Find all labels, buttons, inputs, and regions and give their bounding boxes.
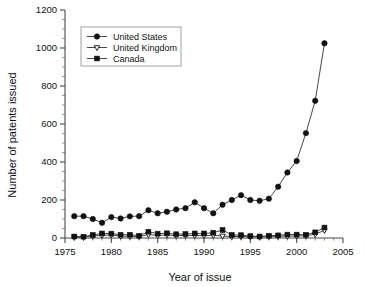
data-point-2-0 <box>72 234 77 239</box>
data-point-2-21 <box>266 233 271 238</box>
x-tick-label: 1985 <box>147 246 168 257</box>
data-point-2-3 <box>100 231 105 236</box>
data-point-0-22 <box>275 184 280 189</box>
data-point-0-15 <box>211 211 216 216</box>
data-point-0-19 <box>248 197 253 202</box>
x-tick-label: 2000 <box>286 246 307 257</box>
data-point-0-21 <box>266 196 271 201</box>
data-point-0-26 <box>313 98 318 103</box>
data-point-0-16 <box>220 202 225 207</box>
y-tick-label: 1000 <box>36 42 57 53</box>
data-point-0-6 <box>127 214 132 219</box>
data-point-0-0 <box>72 213 77 218</box>
x-tick-label: 2005 <box>332 246 353 257</box>
data-point-0-3 <box>99 220 104 225</box>
data-point-2-13 <box>192 231 197 236</box>
data-point-2-4 <box>109 231 114 236</box>
x-axis-label: Year of issue <box>168 271 231 283</box>
data-point-2-6 <box>127 232 132 237</box>
data-point-2-16 <box>220 228 225 233</box>
x-tick-label: 1975 <box>54 246 75 257</box>
data-point-0-11 <box>174 207 179 212</box>
data-point-0-18 <box>238 193 243 198</box>
data-point-2-19 <box>248 234 253 239</box>
data-point-0-1 <box>81 213 86 218</box>
data-point-0-7 <box>136 213 141 218</box>
data-point-2-7 <box>137 233 142 238</box>
data-point-2-5 <box>118 232 123 237</box>
data-point-2-25 <box>304 232 309 237</box>
data-point-0-8 <box>146 208 151 213</box>
legend-label-2: Canada <box>113 54 145 64</box>
data-point-0-17 <box>229 197 234 202</box>
data-point-0-27 <box>322 41 327 46</box>
data-point-2-20 <box>257 234 262 239</box>
patents-line-chart: 1975198019851990199520002005 02004006008… <box>0 0 365 287</box>
data-point-0-5 <box>118 216 123 221</box>
data-point-2-17 <box>229 233 234 238</box>
data-point-0-4 <box>109 214 114 219</box>
data-point-0-24 <box>294 158 299 163</box>
y-tick-label: 800 <box>41 80 57 91</box>
data-point-2-2 <box>90 233 95 238</box>
data-point-0-25 <box>303 130 308 135</box>
data-point-0-13 <box>192 200 197 205</box>
legend-marker-2 <box>95 56 100 61</box>
legend-label-1: United Kingdom <box>113 43 177 53</box>
data-point-2-26 <box>313 230 318 235</box>
y-tick-label: 1200 <box>36 4 57 15</box>
data-point-2-18 <box>239 233 244 238</box>
data-point-2-23 <box>285 232 290 237</box>
x-tick-label: 1980 <box>101 246 122 257</box>
x-tick-label: 1990 <box>193 246 214 257</box>
data-point-0-10 <box>164 209 169 214</box>
data-point-2-8 <box>146 229 151 234</box>
data-point-0-20 <box>257 198 262 203</box>
y-axis-label: Number of patents issued <box>6 72 18 197</box>
data-point-2-12 <box>183 232 188 237</box>
data-point-0-2 <box>90 216 95 221</box>
data-point-0-9 <box>155 211 160 216</box>
data-point-2-11 <box>174 232 179 237</box>
data-point-2-24 <box>294 232 299 237</box>
y-tick-label: 0 <box>52 232 57 243</box>
data-point-2-9 <box>155 231 160 236</box>
data-point-2-1 <box>81 234 86 239</box>
data-point-0-12 <box>183 205 188 210</box>
data-point-2-27 <box>322 225 327 230</box>
y-tick-label: 600 <box>41 118 57 129</box>
x-tick-label: 1995 <box>240 246 261 257</box>
data-point-2-22 <box>276 233 281 238</box>
data-point-2-10 <box>165 231 170 236</box>
legend-marker-0 <box>94 34 99 39</box>
data-point-2-15 <box>211 230 216 235</box>
data-point-0-23 <box>285 170 290 175</box>
y-tick-label: 200 <box>41 194 57 205</box>
chart-legend: United StatesUnited KingdomCanada <box>81 27 181 66</box>
chart-figure: 1975198019851990199520002005 02004006008… <box>0 0 365 287</box>
data-point-0-14 <box>201 205 206 210</box>
data-point-2-14 <box>202 231 207 236</box>
legend-label-0: United States <box>113 32 168 42</box>
y-tick-label: 400 <box>41 156 57 167</box>
